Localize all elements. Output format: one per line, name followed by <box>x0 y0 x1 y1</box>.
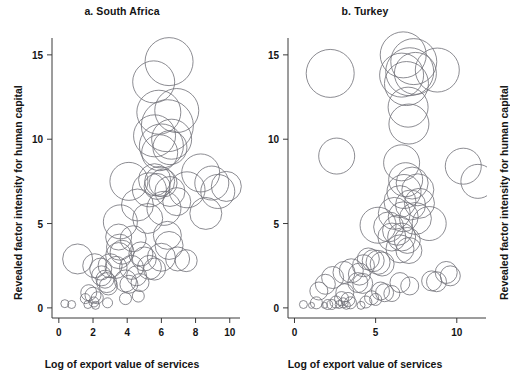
x-tick-label: 8 <box>193 327 199 338</box>
y-tick-label: 10 <box>32 134 44 145</box>
y-tick-label: 15 <box>32 50 44 61</box>
data-point-bubble <box>132 173 166 207</box>
data-point-bubble <box>357 248 379 270</box>
data-point-bubble <box>299 301 307 309</box>
x-tick-label: 2 <box>90 327 96 338</box>
panel-a-plot-area: 0246810051015 <box>0 0 244 376</box>
y-tick-label: 10 <box>268 134 280 145</box>
data-point-bubble <box>145 38 193 86</box>
y-tick-label: 5 <box>273 219 279 230</box>
y-tick-label: 0 <box>37 303 43 314</box>
data-point-bubble <box>412 207 446 241</box>
y-tick-label: 15 <box>268 50 280 61</box>
panel-a-x-axis-label: Log of export value of services <box>0 358 244 370</box>
data-point-bubble <box>415 48 459 92</box>
bubble-series <box>299 32 487 310</box>
data-point-bubble <box>132 290 144 302</box>
data-point-bubble <box>133 61 175 103</box>
panel-turkey: b. Turkey Revealed factor intensity for … <box>243 0 487 376</box>
data-point-bubble <box>389 104 429 144</box>
data-point-bubble <box>396 167 428 199</box>
data-point-bubble <box>461 164 487 198</box>
data-point-bubble <box>155 89 199 133</box>
data-point-bubble <box>175 250 197 272</box>
data-point-bubble <box>110 162 148 200</box>
x-tick-label: 0 <box>56 327 62 338</box>
panel-south-africa: a. South Africa Revealed factor intensit… <box>0 0 244 376</box>
data-point-bubble <box>182 154 220 192</box>
data-point-bubble <box>132 247 156 271</box>
x-tick-label: 10 <box>451 327 463 338</box>
data-point-bubble <box>306 49 354 97</box>
data-point-bubble <box>339 259 363 283</box>
panel-b-plot-area: 0510051015 <box>243 0 487 376</box>
data-point-bubble <box>153 221 181 249</box>
data-point-bubble <box>427 272 447 292</box>
x-tick-label: 10 <box>224 327 236 338</box>
y-tick-label: 5 <box>37 219 43 230</box>
x-tick-label: 5 <box>373 327 379 338</box>
data-point-bubble <box>141 100 193 152</box>
data-point-bubble <box>211 171 241 201</box>
data-point-bubble <box>119 293 131 305</box>
data-point-bubble <box>380 32 426 78</box>
data-point-bubble <box>103 205 137 239</box>
data-point-bubble <box>190 197 222 229</box>
bubble-series <box>61 38 242 310</box>
data-point-bubble <box>63 244 93 274</box>
x-tick-label: 6 <box>159 327 165 338</box>
data-point-bubble <box>370 252 394 276</box>
y-tick-label: 0 <box>273 303 279 314</box>
data-point-bubble <box>309 302 315 308</box>
data-point-bubble <box>445 148 481 184</box>
panel-b-y-axis-label: Revealed factor intensity for human capi… <box>498 85 510 300</box>
data-point-bubble <box>319 138 355 174</box>
data-point-bubble <box>155 176 185 206</box>
data-point-bubble <box>103 298 113 308</box>
x-tick-label: 0 <box>292 327 298 338</box>
panel-b-x-axis-label: Log of export value of services <box>243 358 487 370</box>
data-point-bubble <box>169 172 205 208</box>
x-tick-label: 4 <box>124 327 130 338</box>
